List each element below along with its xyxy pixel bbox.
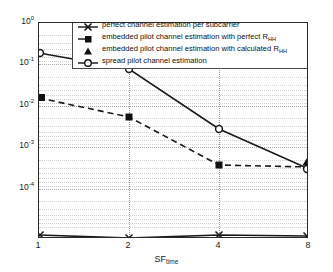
series-embedded-perfect-line <box>39 98 308 167</box>
legend-item-perfect-channel[interactable]: perfect channel estimation per subcarrie… <box>73 22 308 31</box>
legend-marker-circle-icon <box>76 55 100 67</box>
x-tick-1: 1 <box>28 241 48 250</box>
x-tick-8: 8 <box>298 241 318 250</box>
plot-area: perfect channel estimation per subcarrie… <box>38 22 308 238</box>
series-spread-pilot-line <box>39 53 308 169</box>
legend-label-embedded-perfect: embedded pilot channel estimation with p… <box>100 33 276 41</box>
legend-item-embedded-perfect[interactable]: embedded pilot channel estimation with p… <box>73 31 308 43</box>
legend-marker-x-icon <box>76 22 100 31</box>
series-perfect-line <box>39 235 308 238</box>
y-axis-label-holder: BER <box>0 0 40 272</box>
x-axis-label: SFtime <box>0 254 333 264</box>
marker-circle <box>216 126 223 133</box>
legend-marker-square-icon <box>76 31 100 43</box>
legend-item-embedded-calculated[interactable]: embedded pilot channel estimation with c… <box>73 43 308 55</box>
legend: perfect channel estimation per subcarrie… <box>72 22 308 69</box>
legend-item-spread-pilot[interactable]: spread pilot channel estimation <box>73 55 308 67</box>
marker-square <box>126 114 133 121</box>
legend-label-embedded-calculated: embedded pilot channel estimation with c… <box>100 45 287 53</box>
marker-circle <box>39 50 43 57</box>
legend-marker-triangle-icon <box>76 43 100 55</box>
marker-triangle <box>302 158 308 166</box>
marker-square <box>216 162 223 169</box>
marker-x <box>126 235 133 239</box>
marker-circle <box>304 166 308 173</box>
x-tick-2: 2 <box>118 241 138 250</box>
marker-square <box>39 94 45 101</box>
legend-label-perfect-channel: perfect channel estimation per subcarrie… <box>100 22 240 29</box>
legend-label-spread-pilot: spread pilot channel estimation <box>100 57 207 65</box>
x-tick-4: 4 <box>208 241 228 250</box>
ber-vs-sf-chart: 100 10-1 10-2 10-3 10-4 BER <box>0 0 333 272</box>
